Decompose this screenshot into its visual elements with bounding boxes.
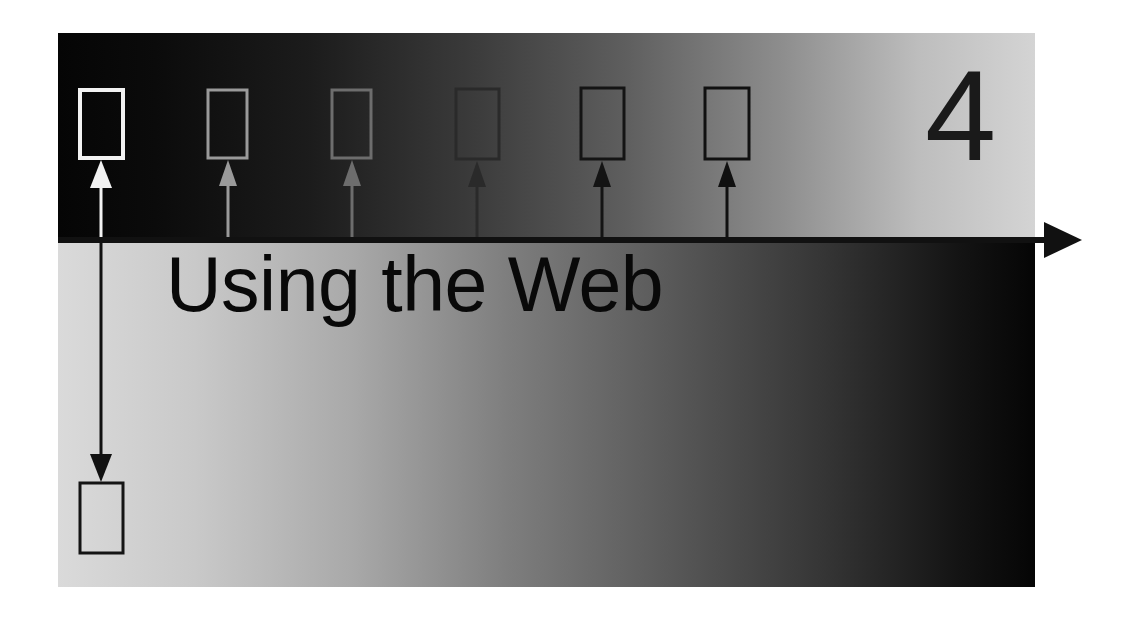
chapter-number: 4 [925,44,996,187]
upper-gradient-band [58,33,1035,240]
slide-title: Using the Web [166,241,663,327]
title-slide-artwork: 4 Using the Web [0,0,1126,624]
slide-root: 4 Using the Web [0,0,1126,624]
